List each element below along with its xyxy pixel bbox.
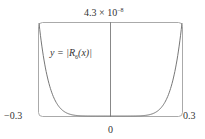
- y-max-label: 4.3 × 10−8: [84, 5, 124, 18]
- x-zero-label: 0: [108, 125, 113, 135]
- function-label: y = |R6(x)|: [50, 48, 92, 62]
- plot-area: [0, 0, 205, 139]
- x-min-label: −0.3: [4, 111, 22, 121]
- x-max-label: 0.3: [183, 111, 196, 121]
